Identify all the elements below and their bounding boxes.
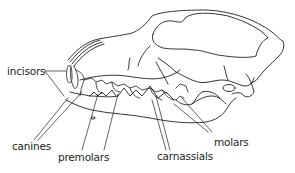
label-canines: canines xyxy=(12,141,51,152)
label-carnassials: carnassials xyxy=(157,151,213,162)
label-premolars: premolars xyxy=(58,152,109,163)
leader-lines xyxy=(34,71,212,150)
diagram-canvas: incisors canines premolars carnassials m… xyxy=(0,0,295,173)
label-incisors: incisors xyxy=(7,66,45,77)
cranium-outline xyxy=(68,10,284,97)
label-molars: molars xyxy=(214,137,249,148)
